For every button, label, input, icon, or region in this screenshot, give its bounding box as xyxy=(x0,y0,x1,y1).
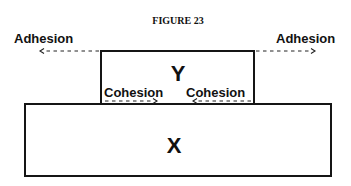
cohesion-left-label: Cohesion xyxy=(104,85,163,100)
figure-title: FIGURE 23 xyxy=(152,15,203,26)
cohesion-right-label: Cohesion xyxy=(186,85,245,100)
adhesion-right-arrow-icon xyxy=(256,49,315,54)
block-x-label: X xyxy=(167,133,182,158)
figure-diagram: FIGURE 23 X Y Adhesion Adhesion Cohesion… xyxy=(0,0,351,186)
adhesion-left-label: Adhesion xyxy=(14,31,73,46)
adhesion-left-arrow-icon xyxy=(40,49,99,54)
block-y-label: Y xyxy=(171,61,186,86)
adhesion-right-label: Adhesion xyxy=(276,31,335,46)
